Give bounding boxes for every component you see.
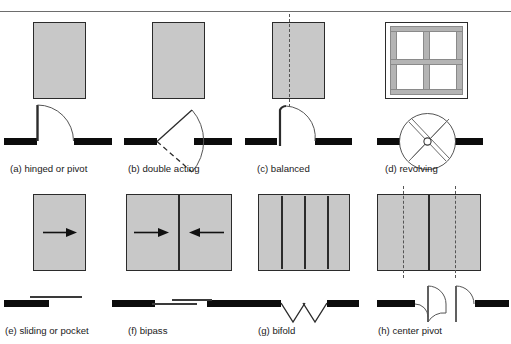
plan-center-pivot-swings: [0, 0, 511, 344]
door-types-figure: (a) hinged or pivot (b) double acting (c…: [0, 0, 511, 344]
caption-center-pivot: (h) center pivot: [378, 325, 442, 337]
